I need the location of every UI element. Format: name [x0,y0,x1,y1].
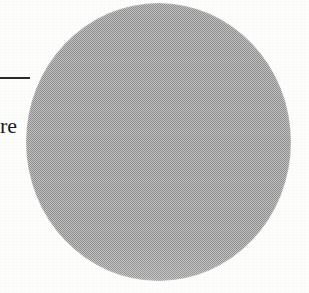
halftone-circle-figure [26,3,291,281]
horizontal-rule [0,77,30,79]
cropped-text-fragment: re [0,114,17,138]
scanned-page: re [0,0,309,293]
